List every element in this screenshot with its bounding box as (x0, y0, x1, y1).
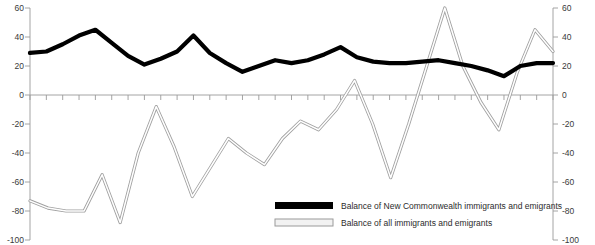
y-tick-label-right: -20 (562, 119, 575, 129)
legend-label: Balance of all immigrants and emigrants (341, 218, 492, 228)
series-line-new-commonwealth (30, 30, 553, 76)
y-tick-label-left: 0 (19, 90, 24, 100)
line-chart: 6040200-20-40-60-80-100 6040200-20-40-60… (0, 0, 595, 245)
y-tick-label-left: 40 (15, 32, 25, 42)
y-tick-label-right: 60 (562, 3, 572, 13)
chart-legend: Balance of New Commonwealth immigrants a… (275, 201, 562, 228)
legend-label: Balance of New Commonwealth immigrants a… (341, 201, 562, 211)
right-axis-labels: 6040200-20-40-60-80-100 (562, 3, 579, 245)
chart-container: 6040200-20-40-60-80-100 6040200-20-40-60… (0, 0, 595, 245)
y-tick-label-left: -40 (12, 148, 25, 158)
x-axis-ticks (30, 95, 553, 100)
series-layer (30, 8, 553, 223)
y-tick-label-right: 20 (562, 61, 572, 71)
y-tick-label-left: -80 (12, 206, 25, 216)
y-tick-label-right: -40 (562, 148, 575, 158)
y-tick-label-right: -80 (562, 206, 575, 216)
y-tick-label-left: -100 (7, 235, 24, 245)
y-tick-label-right: -100 (562, 235, 579, 245)
y-tick-label-left: -20 (12, 119, 25, 129)
left-axis-labels: 6040200-20-40-60-80-100 (7, 3, 24, 245)
y-tick-label-left: -60 (12, 177, 25, 187)
legend-swatch-new-commonwealth (275, 202, 333, 209)
y-tick-label-right: 0 (562, 90, 567, 100)
y-tick-label-left: 20 (15, 61, 25, 71)
y-tick-label-left: 60 (15, 3, 25, 13)
y-tick-label-right: 40 (562, 32, 572, 42)
y-tick-label-right: -60 (562, 177, 575, 187)
legend-swatch-all-immigrants (275, 219, 333, 226)
